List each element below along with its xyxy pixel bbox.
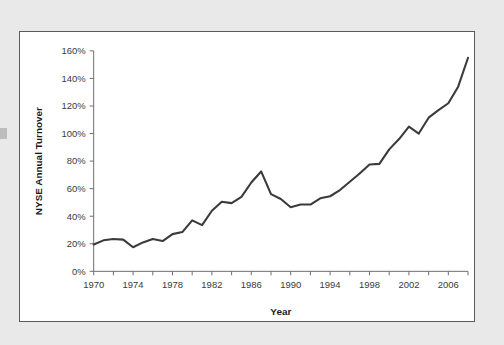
page-edge-artifact — [0, 128, 7, 139]
y-tick-label: 20% — [67, 238, 87, 249]
line-chart: 0%20%40%60%80%100%120%140%160% 197019741… — [20, 32, 474, 321]
y-tick-label: 80% — [67, 155, 87, 166]
chart-plot-area: 0%20%40%60%80%100%120%140%160% 197019741… — [20, 32, 474, 321]
x-tick-label: 1994 — [320, 279, 341, 290]
axis-lines — [94, 51, 468, 271]
y-tick-label: 140% — [62, 73, 87, 84]
x-tick-label: 2002 — [398, 279, 419, 290]
figure-panel: 0%20%40%60%80%100%120%140%160% 197019741… — [19, 31, 475, 322]
x-axis-title: Year — [270, 306, 291, 317]
data-series-line — [94, 58, 468, 247]
y-tick-label: 120% — [62, 100, 87, 111]
x-tick-label: 2006 — [438, 279, 459, 290]
axis-frame — [94, 51, 468, 271]
x-tick-label: 1998 — [359, 279, 380, 290]
y-axis-title: NYSE Annual Turnover — [33, 107, 44, 215]
x-tick-label: 1978 — [162, 279, 183, 290]
y-tick-label: 60% — [67, 183, 87, 194]
y-axis-tick-labels: 0%20%40%60%80%100%120%140%160% — [62, 45, 87, 276]
y-tick-label: 100% — [62, 128, 87, 139]
y-tick-label: 40% — [67, 211, 87, 222]
x-axis-tick-labels: 1970197419781982198619901994199820022006 — [83, 279, 459, 290]
x-tick-label: 1982 — [201, 279, 222, 290]
page-root: 0%20%40%60%80%100%120%140%160% 197019741… — [0, 0, 504, 345]
x-tick-label: 1974 — [123, 279, 144, 290]
x-tick-label: 1990 — [280, 279, 301, 290]
x-tick-label: 1986 — [241, 279, 262, 290]
x-tick-label: 1970 — [83, 279, 104, 290]
y-tick-label: 0% — [72, 266, 86, 277]
y-tick-label: 160% — [62, 45, 87, 56]
